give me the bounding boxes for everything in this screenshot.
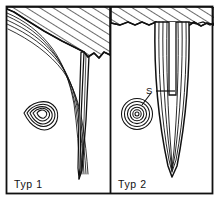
panel-label-typ-1: Typ 1 bbox=[14, 178, 43, 190]
annotation-label-s: S bbox=[146, 85, 152, 96]
figure-canvas: Typ 1 bbox=[0, 0, 223, 205]
panel-label-typ-2: Typ 2 bbox=[118, 178, 147, 190]
central-slot-typ-2 bbox=[169, 22, 176, 95]
geological-cross-section-figure: Typ 1 bbox=[0, 0, 223, 205]
